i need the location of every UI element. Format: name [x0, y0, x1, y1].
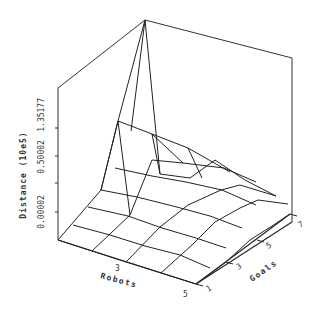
x-tick-3: 3	[115, 264, 120, 273]
surface-chart: 1.35177 0.50002 0.00002 Distance (10e5) …	[0, 0, 321, 311]
z-axis-title: Distance (10e5)	[18, 131, 28, 218]
z-tick-bottom: 0.00002	[37, 195, 46, 229]
x-tick-5: 5	[183, 290, 188, 299]
y-tick-1: 1	[205, 283, 214, 293]
z-tick-top: 1.35177	[37, 98, 46, 132]
y-axis-title: Goals	[248, 258, 279, 283]
z-axis-labels: 1.35177 0.50002 0.00002 Distance (10e5)	[18, 98, 46, 229]
y-tick-5: 5	[265, 240, 274, 250]
y-axis-ticks	[196, 214, 297, 286]
y-tick-3: 3	[235, 261, 244, 271]
axis-box	[55, 20, 292, 240]
y-tick-7: 7	[297, 219, 306, 229]
surface-mesh	[58, 20, 290, 284]
x-axis-labels: 3 5 Robots	[99, 264, 188, 299]
z-tick-mid: 0.50002	[37, 140, 46, 174]
x-axis-title: Robots	[99, 271, 138, 290]
y-axis-labels: 1 3 5 7 Goals	[205, 219, 306, 293]
